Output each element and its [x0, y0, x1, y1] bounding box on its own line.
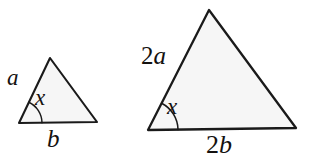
label-side-a: a: [7, 66, 19, 89]
label-base-2b-letter: b: [219, 130, 232, 159]
geometry-figure: a x b 2a x 2b: [0, 0, 316, 167]
label-base-2b-number: 2: [206, 130, 219, 159]
label-angle-x-small: x: [35, 86, 45, 109]
label-side-2a-number: 2: [141, 42, 154, 69]
label-angle-x-large: x: [167, 95, 177, 118]
label-base-b: b: [47, 126, 60, 151]
label-side-2a: 2a: [141, 43, 166, 68]
label-side-2a-letter: a: [154, 42, 167, 69]
label-base-2b: 2b: [206, 132, 232, 158]
